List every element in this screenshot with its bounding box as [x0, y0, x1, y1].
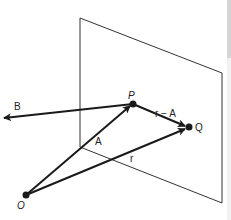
vector-b-arrow	[4, 104, 133, 118]
label-vector-a: A	[95, 136, 102, 147]
point-p	[130, 101, 137, 108]
label-vector-r-minus-a: r − A	[155, 108, 176, 119]
label-point-q: Q	[195, 122, 203, 133]
label-vector-b: B	[14, 101, 21, 112]
label-point-p: P	[128, 90, 135, 101]
point-q	[186, 124, 193, 131]
label-vector-r: r	[130, 153, 134, 164]
vector-diagram: O P Q A B r r − A	[0, 0, 231, 220]
plane	[80, 18, 222, 203]
point-o	[23, 192, 30, 199]
vector-a-arrow	[26, 106, 130, 195]
vector-r-arrow	[26, 129, 185, 195]
label-origin: O	[17, 200, 25, 211]
